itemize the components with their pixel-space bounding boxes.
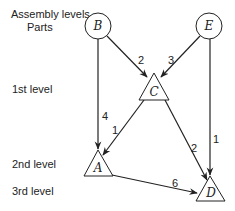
edge-C-A: 1	[103, 100, 144, 155]
edge-E-C-weight: 3	[168, 54, 174, 66]
edge-E-D: 1	[210, 39, 219, 175]
node-E-label: E	[204, 19, 214, 33]
edge-B-C: 2	[107, 36, 147, 77]
node-C: C	[139, 73, 169, 100]
edge-A-D-weight: 6	[172, 177, 178, 189]
edge-B-A: 4	[98, 39, 108, 149]
graph-svg: 2 3 4 1 2 1 6 B	[0, 0, 235, 211]
assembly-diagram: Assembly levels Parts 1st level 2nd leve…	[0, 0, 235, 211]
node-D: D	[196, 176, 225, 201]
edge-C-D: 2	[165, 100, 207, 180]
edge-A-D: 6	[112, 175, 197, 193]
edge-B-C-weight: 2	[138, 54, 144, 66]
node-D-label: D	[205, 186, 216, 200]
node-E: E	[196, 13, 222, 39]
node-B-label: B	[93, 19, 103, 33]
edge-C-D-weight: 2	[191, 142, 197, 154]
node-B: B	[85, 13, 111, 39]
edge-B-A-weight: 4	[102, 110, 108, 122]
edge-E-C: 3	[161, 36, 200, 77]
node-A-label: A	[93, 161, 103, 175]
node-C-label: C	[149, 85, 158, 99]
edge-E-D-weight: 1	[213, 133, 219, 145]
edge-C-A-weight: 1	[112, 124, 118, 136]
node-A: A	[84, 150, 113, 176]
